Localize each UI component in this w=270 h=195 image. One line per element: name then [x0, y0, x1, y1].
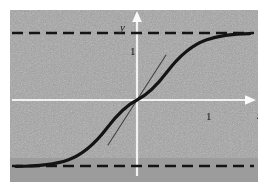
plot-panel: y x 1 1 [10, 10, 258, 182]
arrow-right-icon [245, 95, 256, 105]
arrow-up-icon [132, 11, 142, 22]
y-tick-label-1: 1 [130, 46, 136, 57]
x-tick-label-1: 1 [206, 111, 212, 122]
x-axis-label: x [257, 110, 258, 121]
plot-drawing [10, 10, 258, 182]
figure-root: y x 1 1 [0, 0, 270, 195]
y-axis-label: y [120, 22, 125, 33]
